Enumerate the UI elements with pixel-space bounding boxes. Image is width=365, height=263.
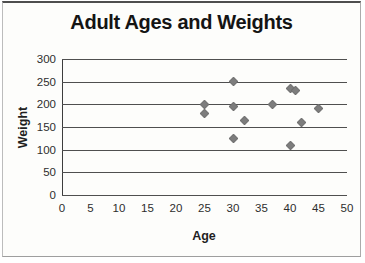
gridline-y-50 bbox=[62, 172, 347, 173]
x-axis-title: Age bbox=[174, 229, 234, 243]
x-tick-label-35: 35 bbox=[250, 201, 274, 215]
chart-frame: Adult Ages and Weights Weight Age 050100… bbox=[2, 1, 361, 257]
figure-scan: { "chart_data": { "type": "scatter", "ti… bbox=[0, 0, 365, 263]
x-tick-label-5: 5 bbox=[79, 201, 103, 215]
data-point-37-200 bbox=[268, 99, 278, 109]
plot-area bbox=[62, 59, 347, 195]
y-tick-label-0: 0 bbox=[24, 188, 56, 202]
x-tick-label-0: 0 bbox=[50, 201, 74, 215]
gridline-y-100 bbox=[62, 150, 347, 151]
data-point-25-180 bbox=[200, 108, 210, 118]
x-tick-label-20: 20 bbox=[164, 201, 188, 215]
x-tick-label-40: 40 bbox=[278, 201, 302, 215]
x-tick-label-50: 50 bbox=[335, 201, 359, 215]
gridline-y-300 bbox=[62, 59, 347, 60]
gridline-y-250 bbox=[62, 82, 347, 83]
data-point-30-250 bbox=[228, 77, 238, 87]
y-tick-label-100: 100 bbox=[24, 143, 56, 157]
y-tick-label-200: 200 bbox=[24, 97, 56, 111]
data-point-30-125 bbox=[228, 133, 238, 143]
y-tick-label-50: 50 bbox=[24, 165, 56, 179]
gridline-y-150 bbox=[62, 127, 347, 128]
data-point-40-110 bbox=[285, 140, 295, 150]
data-point-42-160 bbox=[296, 118, 306, 128]
x-tick-label-15: 15 bbox=[136, 201, 160, 215]
x-tick-label-25: 25 bbox=[193, 201, 217, 215]
data-point-41-230 bbox=[291, 86, 301, 96]
x-tick-label-30: 30 bbox=[221, 201, 245, 215]
chart-title: Adult Ages and Weights bbox=[3, 11, 360, 34]
data-point-32-165 bbox=[239, 115, 249, 125]
y-tick-label-150: 150 bbox=[24, 120, 56, 134]
y-tick-label-250: 250 bbox=[24, 75, 56, 89]
gridline-y-0 bbox=[62, 195, 347, 196]
x-tick-label-10: 10 bbox=[107, 201, 131, 215]
x-tick-label-45: 45 bbox=[307, 201, 331, 215]
data-point-45-190 bbox=[314, 104, 324, 114]
y-tick-label-300: 300 bbox=[24, 52, 56, 66]
